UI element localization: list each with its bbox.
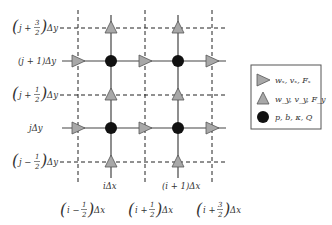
label-j-plus-1-2: ( j + 1 2 ) Δy [12, 84, 58, 104]
svg-text:j −: j − [17, 157, 31, 167]
svg-text:Δy: Δy [46, 23, 58, 33]
svg-text:j +: j + [17, 23, 31, 33]
solid-grid [62, 15, 226, 178]
svg-text:2: 2 [81, 211, 87, 219]
legend: wₓ, vₓ, Fₓ w_y, v_y, F_y p, b, κ, Q [251, 65, 326, 129]
legend-dot-label: p, b, κ, Q [275, 113, 313, 122]
label-j-plus-3-2: ( j + 3 2 ) Δy [12, 17, 58, 37]
legend-x-label: wₓ, vₓ, Fₓ [275, 76, 311, 85]
svg-text:(: ( [196, 200, 203, 219]
svg-text:Δy: Δy [46, 157, 58, 167]
dashed-grid [60, 10, 225, 182]
svg-text:2: 2 [149, 211, 155, 219]
y-axis-labels: ( j + 3 2 ) Δy (j + 1)Δy ( j + 1 2 ) Δy … [12, 17, 58, 171]
svg-text:2: 2 [34, 96, 40, 104]
staggered-grid-diagram: ( j + 3 2 ) Δy (j + 1)Δy ( j + 1 2 ) Δy … [0, 0, 332, 225]
svg-text:Δx: Δx [229, 205, 241, 215]
svg-text:(: ( [60, 200, 67, 219]
label-j-minus-1-2: ( j − 1 2 ) Δy [12, 151, 58, 171]
svg-text:3: 3 [35, 19, 40, 27]
svg-text:1: 1 [35, 86, 39, 94]
svg-text:Δx: Δx [93, 205, 105, 215]
svg-text:2: 2 [34, 163, 40, 171]
legend-y-label: w_y, v_y, F_y [275, 95, 326, 104]
svg-text:i +: i + [135, 205, 148, 215]
svg-text:i −: i − [67, 205, 80, 215]
svg-text:1: 1 [82, 201, 86, 209]
label-j: jΔy [27, 123, 43, 133]
label-i-minus-1-2: ( i − 1 2 ) Δx [60, 200, 105, 219]
label-i-plus-3-2: ( i + 3 2 ) Δx [196, 200, 241, 219]
label-j-plus-1: (j + 1)Δy [18, 56, 56, 66]
svg-text:(: ( [128, 200, 135, 219]
label-i: iΔx [103, 181, 117, 191]
svg-text:Δy: Δy [46, 90, 58, 100]
label-i-plus-1: (i + 1)Δx [162, 181, 200, 191]
dot-icon [257, 111, 269, 123]
svg-text:1: 1 [150, 201, 154, 209]
svg-text:i +: i + [203, 205, 216, 215]
svg-text:j +: j + [17, 90, 31, 100]
svg-text:2: 2 [217, 211, 223, 219]
svg-text:2: 2 [34, 29, 40, 37]
svg-text:(: ( [12, 84, 19, 103]
label-i-plus-1-2: ( i + 1 2 ) Δx [128, 200, 173, 219]
x-axis-labels: iΔx (i + 1)Δx ( i − 1 2 ) Δx ( i + 1 2 )… [60, 181, 241, 219]
svg-text:Δx: Δx [161, 205, 173, 215]
svg-text:3: 3 [218, 201, 223, 209]
svg-text:1: 1 [35, 153, 39, 161]
svg-text:(: ( [12, 151, 19, 170]
svg-text:(: ( [12, 17, 19, 36]
